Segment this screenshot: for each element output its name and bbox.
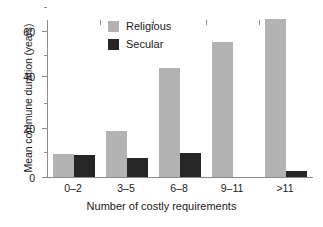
bar-secular-6-8 bbox=[180, 153, 201, 177]
bar-secular-0-2 bbox=[74, 155, 95, 177]
legend-label-religious: Religious bbox=[126, 20, 171, 32]
y-tick-label-40: 40 bbox=[23, 71, 35, 83]
legend-label-secular: Secular bbox=[126, 38, 163, 50]
plot-area: 60 40 20 0 bbox=[47, 20, 311, 177]
x-axis-line bbox=[47, 177, 313, 178]
chart-legend: Religious Secular bbox=[108, 18, 171, 54]
bar-group-9-11 bbox=[206, 20, 259, 177]
legend-swatch-religious-icon bbox=[108, 21, 119, 32]
x-tick-label-9-11: 9–11 bbox=[221, 182, 244, 194]
bar-religious-0-2 bbox=[53, 154, 74, 177]
y-tick-label-0: 0 bbox=[29, 172, 35, 184]
x-tick-label-6-8: 6–8 bbox=[170, 182, 188, 194]
y-tick-label-20: 20 bbox=[23, 123, 35, 135]
bar-secular-gt-11 bbox=[286, 171, 307, 177]
y-tick-0: 0 bbox=[42, 177, 47, 178]
bar-secular-3-5 bbox=[127, 158, 148, 177]
legend-swatch-secular-icon bbox=[108, 39, 119, 50]
bar-religious-6-8 bbox=[159, 68, 180, 177]
x-axis-title: Number of costly requirements bbox=[0, 200, 323, 212]
bar-chart: Mean commune duration (years) 60 40 20 0 bbox=[0, 0, 323, 227]
legend-item-religious: Religious bbox=[108, 18, 171, 34]
bar-group-0-2 bbox=[47, 20, 100, 177]
bar-religious-9-11 bbox=[212, 42, 233, 177]
bar-group-gt-11 bbox=[259, 20, 312, 177]
x-tick-label-0-2: 0–2 bbox=[64, 182, 82, 194]
x-tick-label-gt-11: >11 bbox=[276, 182, 293, 194]
y-tick-minor-70 bbox=[44, 7, 47, 8]
x-tick-label-3-5: 3–5 bbox=[117, 182, 135, 194]
bar-religious-3-5 bbox=[106, 131, 127, 177]
bar-religious-gt-11 bbox=[265, 19, 286, 177]
y-tick-label-60: 60 bbox=[23, 26, 35, 38]
legend-item-secular: Secular bbox=[108, 36, 171, 52]
